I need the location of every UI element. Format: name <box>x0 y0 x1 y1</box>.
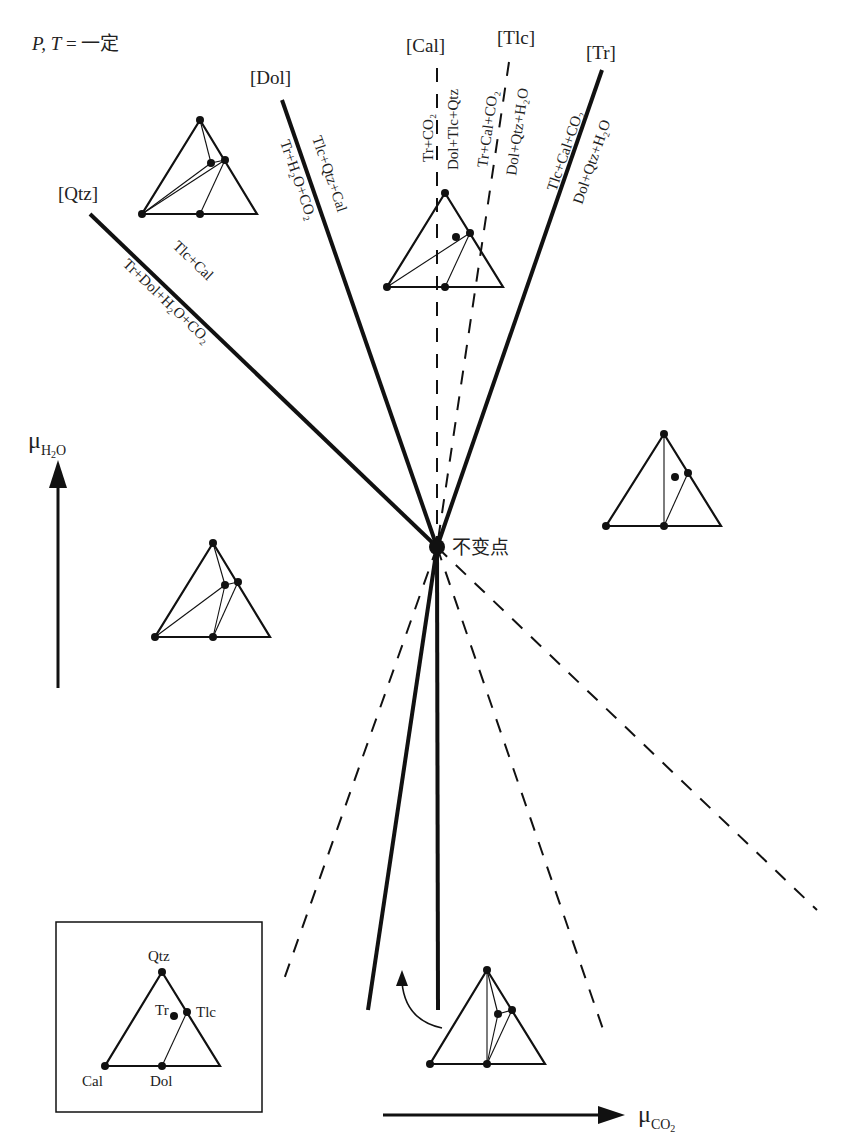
reaction-label-cal: [Cal] <box>406 35 445 56</box>
schreinemakers-diagram: P, T = 一定 不变点 [Qtz] [Dol] [Cal] [Tlc] [T… <box>0 0 850 1148</box>
reaction-label-qtz: [Qtz] <box>58 183 98 204</box>
reaction-label-tlc: [Tlc] <box>497 27 535 48</box>
reaction-line-cal-stable <box>368 547 437 1010</box>
legend-label-tr: Tr <box>155 1002 169 1018</box>
reaction-cal-top: Tr+CO₂ <box>420 114 436 162</box>
legend-chemography-box: Qtz Tr Tlc Cal Dol <box>56 922 262 1112</box>
invariant-point-label: 不变点 <box>452 537 509 558</box>
reaction-line-qtz-metastable-ext <box>437 547 817 910</box>
legend-label-qtz: Qtz <box>148 948 170 964</box>
condition-label: P, T = 一定 <box>31 33 119 54</box>
reaction-line-tr-metastable-ext <box>437 547 605 1035</box>
reaction-tlc-bottom: Dol+Qtz+H₂O <box>503 87 531 177</box>
legend-label-cal: Cal <box>82 1073 103 1089</box>
rotation-arrow-icon <box>396 970 442 1028</box>
invariant-point <box>429 539 445 555</box>
reaction-line-dol-metastable-ext <box>282 547 437 985</box>
reaction-cal-bottom: Dol+Tlc+Qtz <box>445 89 461 170</box>
legend-label-tlc: Tlc <box>196 1004 216 1020</box>
reaction-qtz-top: Tlc+Cal <box>170 238 217 284</box>
reaction-label-dol: [Dol] <box>250 67 291 88</box>
y-axis-label: μH2O <box>28 427 66 460</box>
reaction-line-tlc-stable <box>437 547 438 1010</box>
reaction-label-tr: [Tr] <box>586 42 616 63</box>
chemography-qtz-dol-field <box>138 116 257 218</box>
chemography-left-field <box>151 539 270 641</box>
arrow-right-icon <box>598 1106 625 1124</box>
x-axis-mu-co2: μCO2 <box>383 1101 675 1134</box>
legend-label-dol: Dol <box>150 1073 173 1089</box>
chemography-right-field <box>602 430 721 530</box>
x-axis-label: μCO2 <box>638 1101 675 1134</box>
reaction-tlc-top: Tr+Cal+CO₂ <box>474 89 501 168</box>
arrow-up-icon <box>49 460 67 488</box>
chemography-dol-tr-field <box>383 189 503 291</box>
y-axis-mu-h2o: μH2O <box>28 427 67 688</box>
reaction-line-qtz <box>90 214 437 547</box>
reaction-line-dol <box>282 100 437 547</box>
chemography-bottom-field <box>426 966 545 1068</box>
